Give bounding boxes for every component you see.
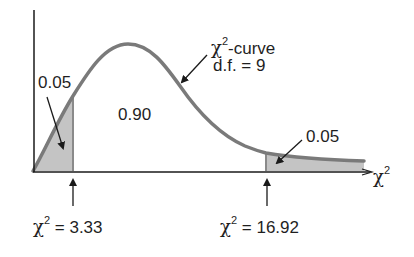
superscript: 2 <box>44 214 50 226</box>
curve-label-pointer-arrow <box>182 55 207 82</box>
left-area-label: 0.05 <box>38 74 71 92</box>
left-critical-value-label: χ2 = 3.33 <box>33 213 103 237</box>
chi-square-curve <box>33 44 364 171</box>
chi-symbol: χ <box>33 216 44 237</box>
right-area-label: 0.05 <box>306 128 339 146</box>
chi-symbol: χ <box>211 37 222 58</box>
curve-name-label: χ2-curve <box>211 34 275 58</box>
chi-symbol: χ <box>373 166 384 187</box>
x-axis-label: χ2 <box>373 163 390 187</box>
chi-symbol: χ <box>220 216 231 237</box>
middle-area-label: 0.90 <box>118 106 151 124</box>
critical-value: = 3.33 <box>50 218 102 237</box>
critical-value: = 16.92 <box>237 218 299 237</box>
degrees-of-freedom-label: d.f. = 9 <box>213 57 265 75</box>
curve-name-suffix: -curve <box>228 39 275 58</box>
superscript: 2 <box>384 164 390 176</box>
superscript: 2 <box>222 35 228 47</box>
superscript: 2 <box>231 214 237 226</box>
right-critical-value-label: χ2 = 16.92 <box>220 213 299 237</box>
